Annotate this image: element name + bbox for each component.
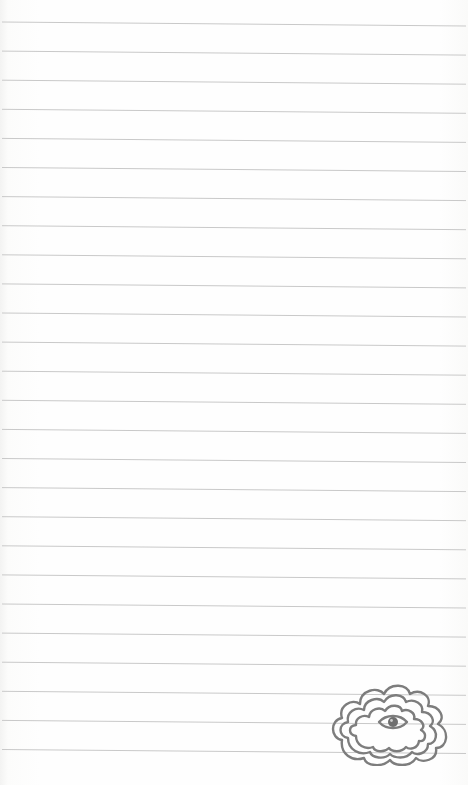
ruled-line [2,22,466,26]
ruled-line [2,633,466,637]
ruled-line [2,429,466,433]
ruled-line [2,255,466,259]
ruled-line [2,575,466,579]
cloud-with-eye-icon [328,678,454,766]
ruled-line [2,662,466,666]
ruled-line [2,459,466,463]
ruled-line [2,138,466,142]
ruled-line [2,51,466,55]
notepad-page [0,0,468,785]
ruled-line [2,400,466,404]
ruled-lines [0,0,468,785]
ruled-line [2,546,466,550]
ruled-line [2,197,466,201]
ruled-line [2,284,466,288]
ruled-line [2,226,466,230]
ruled-line [2,80,466,84]
ruled-line [2,517,466,521]
ruled-line [2,604,466,608]
ruled-line [2,109,466,113]
eye-pupil [388,717,398,727]
ruled-line [2,488,466,492]
ruled-line [2,313,466,317]
ruled-line [2,342,466,346]
ruled-line [2,371,466,375]
ruled-line [2,168,466,172]
